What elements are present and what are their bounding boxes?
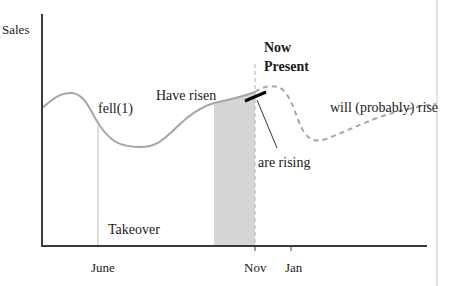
are-rising-pointer [257,100,277,148]
sales-timeline-diagram: Sales fell(1) Have risen Now Present are… [0,0,452,286]
label-fell: fell(1) [98,101,133,117]
x-tick-label-jan: Jan [285,260,303,275]
label-have-risen: Have risen [156,88,216,103]
label-now: Now [264,40,292,55]
y-axis-label: Sales [2,22,29,37]
shaded-recent-period [214,92,255,246]
label-will-rise: will (probably) rise [330,100,438,116]
x-tick-label-june: June [91,260,115,275]
label-takeover: Takeover [108,222,160,237]
label-are-rising: are rising [258,155,310,170]
label-present: Present [264,59,309,74]
x-tick-label-nov: Nov [244,260,267,275]
